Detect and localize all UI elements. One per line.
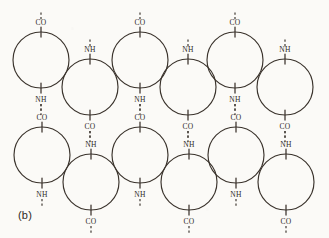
- residue-label-top: NH: [85, 140, 97, 149]
- residue-label-bottom: CO: [279, 122, 290, 131]
- residue-label-bottom: CO: [182, 122, 193, 131]
- residue-label-bottom: NH: [230, 190, 242, 199]
- beta-sheet-diagram: CONHNHCOCONHNHCOCONHNHCOCONHNHCOCONHNHCO…: [0, 0, 329, 238]
- residue-label-bottom: CO: [84, 122, 95, 131]
- residue-label-top: CO: [36, 113, 47, 122]
- residue-label-bottom: CO: [280, 217, 291, 226]
- residue-label-bottom: CO: [85, 217, 96, 226]
- figure-background: [0, 0, 329, 238]
- figure-caption: (b): [18, 209, 32, 221]
- residue-label-bottom: NH: [134, 190, 146, 199]
- residue-label-bottom: NH: [35, 95, 47, 104]
- residue-label-bottom: CO: [183, 217, 194, 226]
- residue-label-bottom: NH: [134, 95, 146, 104]
- diagram-canvas: CONHNHCOCONHNHCOCONHNHCOCONHNHCOCONHNHCO…: [0, 0, 329, 238]
- residue-label-top: NH: [183, 140, 195, 149]
- residue-label-top: NH: [280, 140, 292, 149]
- residue-label-bottom: NH: [229, 95, 241, 104]
- residue-label-top: CO: [230, 113, 241, 122]
- residue-label-bottom: NH: [36, 190, 48, 199]
